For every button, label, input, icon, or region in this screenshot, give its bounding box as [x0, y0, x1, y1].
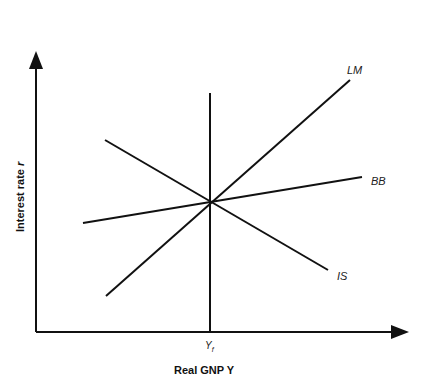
x-axis-label-var: Y — [227, 364, 235, 376]
y-axis-label-main: Interest rate — [14, 166, 26, 232]
bb-label: BB — [371, 175, 386, 187]
x-axis-label: Real GNP Y — [174, 364, 235, 376]
y-axis-label-var: r — [14, 161, 26, 166]
lm-curve — [106, 80, 350, 296]
yf-label: Yf — [205, 340, 215, 353]
lm-label: LM — [347, 64, 363, 76]
bb-curve — [83, 177, 362, 223]
is-lm-bb-diagram: LM BB IS Yf Real GNP Y Interest rate r — [0, 0, 425, 388]
yf-sub: f — [212, 346, 215, 353]
is-label: IS — [337, 270, 348, 282]
x-axis-arrow-icon — [391, 325, 409, 339]
is-curve — [105, 140, 328, 270]
x-axis-label-main: Real GNP — [174, 364, 227, 376]
y-axis-label: Interest rate r — [14, 161, 26, 232]
y-axis-arrow-icon — [29, 51, 43, 69]
